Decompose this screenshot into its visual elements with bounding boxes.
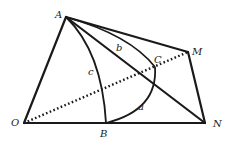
segment-AN: [66, 17, 205, 123]
point-label-C: C: [154, 54, 162, 65]
arc-a: [106, 67, 155, 123]
diagram-svg: A M N O B C c b a: [0, 0, 232, 144]
point-label-O: O: [11, 117, 19, 128]
point-label-B: B: [99, 128, 107, 139]
arc-label-b: b: [116, 42, 122, 53]
point-label-N: N: [212, 118, 223, 129]
point-label-M: M: [191, 46, 203, 57]
segment-AO: [24, 17, 66, 123]
arc-b: [66, 17, 155, 67]
arc-label-a: a: [138, 101, 144, 112]
point-label-A: A: [54, 9, 62, 20]
arc-label-c: c: [88, 66, 94, 77]
geometry-diagram: A M N O B C c b a: [0, 0, 232, 144]
